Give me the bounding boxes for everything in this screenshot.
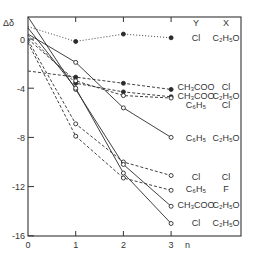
y-tick-label: -8 (17, 133, 25, 143)
series-label-y: Cl (192, 33, 201, 43)
data-point-marker (121, 106, 125, 110)
axes: 0123n0-4-8-12-16Δδ (3, 17, 190, 250)
data-point-marker (74, 122, 78, 126)
series-line (28, 71, 173, 91)
chart: YXClC₂H₅OCH₃COOClCH₃COOC₂H₅OC₆H₅ClC₆H₅C₂… (0, 0, 255, 254)
series-label-x: Cl (222, 100, 231, 110)
series-label-y: C₆H₅ (186, 100, 207, 110)
series-line (28, 40, 173, 177)
data-point-marker (121, 32, 125, 36)
x-tick-label: 3 (169, 240, 174, 250)
data-point-marker (121, 94, 125, 98)
y-tick-label: -12 (12, 182, 25, 192)
data-point-marker (169, 96, 173, 100)
legend-header-y: Y (193, 18, 199, 28)
y-tick-label: -4 (17, 84, 25, 94)
series-line (28, 27, 173, 44)
data-point-marker (169, 188, 173, 192)
data-point-marker (169, 204, 173, 208)
series-label-y: CH₃COO (177, 200, 214, 210)
series-label-x: Cl (222, 172, 231, 182)
series-label-x: C₂H₅O (212, 200, 239, 210)
data-point-marker (74, 79, 78, 83)
data-point-marker (169, 87, 173, 91)
series-label-x: C₂H₅O (212, 133, 239, 143)
data-point-marker (121, 176, 125, 180)
series-label-x: F (223, 184, 229, 194)
y-axis-label: Δδ (3, 18, 14, 28)
data-point-marker (121, 171, 125, 175)
series-line (28, 39, 173, 100)
series-layer (28, 17, 173, 226)
series-labels: YXClC₂H₅OCH₃COOClCH₃COOC₂H₅OC₆H₅ClC₆H₅C₂… (177, 18, 239, 228)
data-point-marker (169, 174, 173, 178)
data-point-marker (74, 39, 78, 43)
legend-header-x: X (223, 18, 229, 28)
data-point-marker (121, 81, 125, 85)
data-point-marker (169, 36, 173, 40)
x-tick-label: 1 (73, 240, 78, 250)
data-point-marker (74, 134, 78, 138)
series-label-y: C₆H₅ (186, 184, 207, 194)
data-point-marker (169, 135, 173, 139)
series-label-y: Cl (192, 172, 201, 182)
series-label-y: C₆H₅ (186, 133, 207, 143)
series-label-x: C₂H₅O (212, 218, 239, 228)
x-tick-label: 2 (121, 240, 126, 250)
x-tick-label: 0 (25, 240, 30, 250)
series-line (28, 35, 173, 98)
x-axis-label: n (185, 240, 190, 250)
series-label-x: C₂H₅O (212, 33, 239, 43)
series-line (28, 17, 173, 208)
y-tick-label: 0 (20, 35, 25, 45)
data-point-marker (74, 86, 78, 90)
data-point-marker (74, 60, 78, 64)
y-tick-label: -16 (12, 231, 25, 241)
data-point-marker (121, 162, 125, 166)
series-label-y: Cl (192, 218, 201, 228)
data-point-marker (169, 222, 173, 226)
